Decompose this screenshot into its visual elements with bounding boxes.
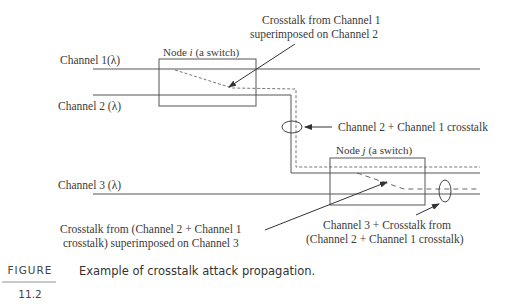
annotation-crosstalk-ch1-line2: superimposed on Channel 2 (250, 28, 378, 41)
node-j-label: Node j (a switch) (336, 144, 412, 157)
figure-label: FIGURE (4, 264, 56, 276)
channel-2-line (93, 95, 480, 173)
figure-caption: Example of crosstalk attack propagation. (79, 264, 315, 278)
channel-3-label: Channel 3 (λ) (58, 179, 121, 192)
node-i-box (159, 59, 256, 106)
node-j-box (330, 158, 425, 205)
annotation-ch3-result-line1: Channel 3 + Crosstalk from (323, 219, 451, 231)
annotation-ch2-plus-ch1: Channel 2 + Channel 1 crosstalk (338, 121, 488, 133)
annotation-crosstalk-ch1-line1: Crosstalk from Channel 1 (262, 14, 381, 26)
figure-label-divider (2, 281, 56, 283)
ellipse-channel-2-signal (282, 121, 302, 133)
channel-1-label: Channel 1(λ) (60, 54, 120, 67)
figure-number: 11.2 (4, 288, 56, 300)
annotation-crosstalk-ch3-line1: Crosstalk from (Channel 2 + Channel 1 (60, 223, 242, 236)
node-i-label: Node i (a switch) (163, 46, 239, 59)
annotation-crosstalk-ch3-line2: crosstalk) superimposed on Channel 3 (63, 237, 239, 250)
channel-2-crosstalk-path (175, 70, 480, 167)
ellipse-channel-3-signal (439, 180, 451, 202)
crosstalk-propagation-diagram: Channel 1(λ) Channel 2 (λ) Channel 3 (λ)… (0, 0, 522, 307)
arrow-to-ellipse-channel-3 (416, 204, 439, 215)
channel-2-label: Channel 2 (λ) (58, 100, 121, 113)
annotation-ch3-result-line2: (Channel 2 + Channel 1 crosstalk) (306, 233, 464, 246)
